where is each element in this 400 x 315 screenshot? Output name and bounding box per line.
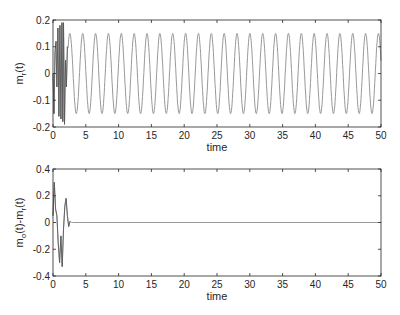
y-tick-label: 0.1 [36,41,50,52]
y-tick-label: -0.2 [33,244,51,255]
x-tick-label: 5 [83,130,89,141]
x-tick-label: 0 [50,130,56,141]
x-axis-label: time [207,141,228,153]
x-tick-label: 45 [343,130,355,141]
y-axis-label: mr(t) [13,62,28,84]
y-tick-label: 0.4 [36,164,50,175]
x-tick-label: 45 [343,279,355,290]
series-line [53,182,381,266]
y-tick-label: 0.2 [36,190,50,201]
x-tick-label: 50 [375,130,387,141]
x-tick-label: 20 [179,130,191,141]
x-tick-label: 50 [375,279,387,290]
x-tick-label: 10 [113,130,125,141]
y-axis-label: mo(t)-mr(t) [13,198,28,248]
x-tick-label: 30 [244,130,256,141]
x-tick-label: 10 [113,279,125,290]
x-tick-label: 25 [211,279,223,290]
x-tick-label: 30 [244,279,256,290]
x-tick-label: 35 [277,279,289,290]
y-tick-label: -0.2 [33,122,51,133]
chart-figure: 05101520253035404550-0.2-0.100.10.2timem… [0,0,400,315]
x-tick-label: 40 [310,130,322,141]
x-tick-label: 5 [83,279,89,290]
y-tick-label: 0 [44,68,50,79]
x-tick-label: 40 [310,279,322,290]
x-tick-label: 35 [277,130,289,141]
plot-error: 05101520253035404550-0.4-0.200.20.4timem… [13,164,387,303]
x-axis-label: time [207,290,228,302]
x-tick-label: 0 [50,279,56,290]
x-tick-label: 20 [179,279,191,290]
y-tick-label: -0.1 [33,95,51,106]
x-tick-label: 15 [146,279,158,290]
y-tick-label: 0 [44,217,50,228]
x-tick-label: 25 [211,130,223,141]
series-line [53,23,381,125]
plot-mr: 05101520253035404550-0.2-0.100.10.2timem… [13,15,387,154]
y-tick-label: 0.2 [36,15,50,26]
y-tick-label: -0.4 [33,271,51,282]
transient-line [53,182,70,266]
x-tick-label: 15 [146,130,158,141]
